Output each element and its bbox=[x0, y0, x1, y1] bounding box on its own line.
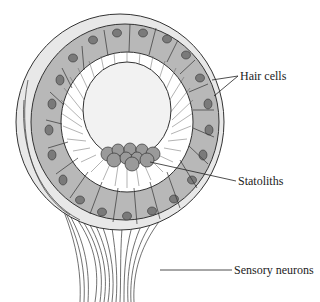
label-sensory-neurons: Sensory neurons bbox=[234, 263, 314, 277]
statocyst-diagram: Hair cells Statoliths Sensory neurons bbox=[0, 0, 320, 302]
statocyst-illustration bbox=[0, 0, 320, 302]
label-statoliths: Statoliths bbox=[238, 174, 283, 188]
label-hair-cells: Hair cells bbox=[240, 69, 286, 83]
